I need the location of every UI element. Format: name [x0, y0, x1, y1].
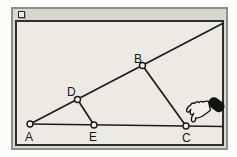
close-box-icon[interactable] [18, 11, 25, 18]
scanned-figure: AECDB [0, 0, 237, 157]
sketch-window [11, 7, 228, 150]
window-titlebar [15, 9, 224, 20]
sketch-canvas[interactable] [15, 20, 224, 146]
